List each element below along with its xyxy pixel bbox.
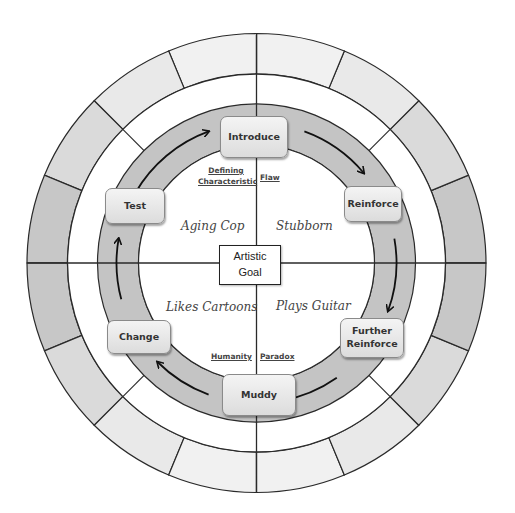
label-humanity: Humanity (211, 351, 252, 362)
goal-line2: Goal (234, 265, 267, 281)
trait-likes-cartoons: Likes Cartoons (166, 300, 257, 314)
stage-introduce: Introduce (220, 116, 288, 158)
stage-label: Muddy (241, 389, 277, 402)
stage-test: Test (105, 188, 165, 224)
stage-change: Change (107, 320, 171, 354)
stage-label: Change (119, 331, 159, 344)
trait-plays-guitar: Plays Guitar (276, 299, 351, 313)
label-paradox: Paradox (260, 351, 294, 362)
stage-muddy: Muddy (222, 374, 296, 416)
stage-label: Introduce (228, 131, 280, 144)
trait-stubborn: Stubborn (276, 219, 333, 233)
label-defining-characteristic: Defining Characteristic (198, 165, 254, 188)
trait-aging-cop: Aging Cop (181, 219, 245, 233)
stage-label: Reinforce (347, 198, 398, 211)
stage-reinforce: Reinforce (344, 186, 402, 222)
stage-label: Further (346, 325, 397, 338)
stage-label: Test (124, 200, 146, 213)
label-line: Characteristic (198, 176, 254, 187)
goal-line1: Artistic (234, 249, 267, 265)
label-line: Defining (198, 165, 254, 176)
stage-further-reinforce: FurtherReinforce (340, 318, 404, 358)
stage-label: Reinforce (346, 338, 397, 351)
label-flaw: Flaw (260, 172, 280, 183)
artistic-goal-box: ArtisticGoal (219, 245, 281, 285)
